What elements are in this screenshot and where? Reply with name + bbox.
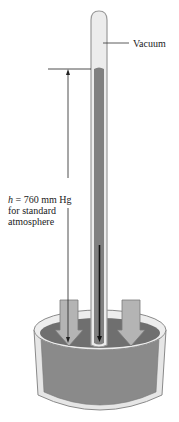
- vacuum-label: Vacuum: [133, 38, 166, 49]
- height-value: = 760 mm Hg: [13, 194, 71, 205]
- glass-tube: [91, 11, 107, 347]
- height-label-line3: atmosphere: [8, 216, 88, 227]
- height-label: h = 760 mm Hg for standard atmosphere: [8, 194, 88, 227]
- height-label-line2: for standard: [8, 205, 88, 216]
